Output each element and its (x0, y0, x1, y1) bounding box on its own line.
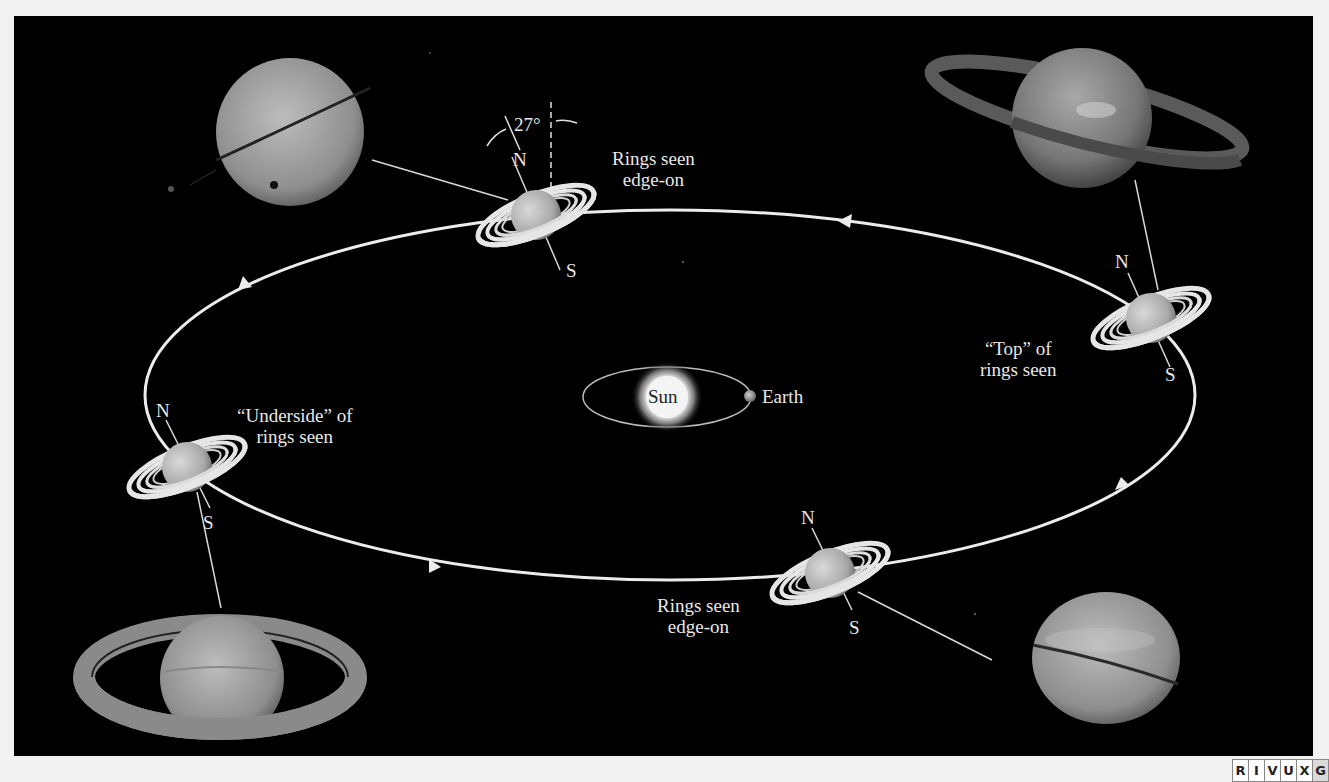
wavelength-band-indicator: R I V U X G (1232, 759, 1329, 782)
underside-of-rings-label-line2: rings seen (237, 426, 353, 447)
photo-edge-on-top (190, 58, 370, 206)
photo-top-of-rings (924, 42, 1249, 188)
saturn-position-right (1084, 272, 1218, 367)
band-letter-r: R (1233, 760, 1249, 781)
band-letter-g: G (1313, 760, 1328, 781)
south-pole-label-top: S (566, 260, 577, 282)
south-pole-label-right: S (1165, 364, 1176, 386)
photo-edge-on-bottom (1032, 592, 1180, 724)
top-of-rings-label-line2: rings seen (980, 359, 1057, 380)
edge-on-label-top-line2: edge-on (612, 169, 695, 190)
band-letter-x: X (1297, 760, 1313, 781)
band-letter-v: V (1265, 760, 1281, 781)
north-pole-label-left: N (156, 400, 170, 422)
south-pole-label-left: S (203, 512, 214, 534)
edge-on-label-bottom-line2: edge-on (657, 616, 740, 637)
band-letter-u: U (1281, 760, 1297, 781)
south-pole-label-bottom: S (849, 617, 860, 639)
top-of-rings-label-line1: “Top” of (980, 338, 1057, 359)
earth (744, 390, 756, 402)
edge-on-label-bottom-line1: Rings seen (657, 595, 740, 616)
sun-label: Sun (648, 386, 678, 407)
underside-of-rings-label: “Underside” of rings seen (237, 405, 353, 447)
photo-underside-of-rings (84, 616, 356, 740)
edge-on-label-top: Rings seen edge-on (612, 148, 695, 190)
band-letter-i: I (1249, 760, 1265, 781)
saturn-position-bottom (763, 527, 897, 620)
tilt-angle-label: 27° (514, 114, 541, 135)
edge-on-label-bottom: Rings seen edge-on (657, 595, 740, 637)
north-pole-label-top: N (513, 149, 527, 171)
underside-of-rings-label-line1: “Underside” of (237, 405, 353, 426)
earth-label: Earth (762, 386, 803, 407)
north-pole-label-bottom: N (801, 507, 815, 529)
top-of-rings-label: “Top” of rings seen (980, 338, 1057, 380)
north-pole-label-right: N (1115, 251, 1129, 273)
edge-on-label-top-line1: Rings seen (612, 148, 695, 169)
